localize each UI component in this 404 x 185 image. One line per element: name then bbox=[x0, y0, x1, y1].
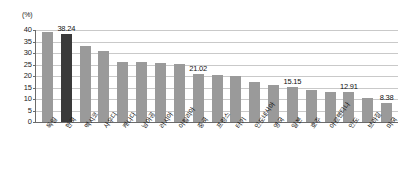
y-tick-label: 0 bbox=[28, 118, 32, 126]
x-label-slot: 사우디 bbox=[95, 124, 114, 182]
y-tick-label: 25 bbox=[24, 61, 32, 69]
x-label-slot: 러시아 bbox=[151, 124, 170, 182]
y-tick-label: 35 bbox=[24, 38, 32, 46]
x-label-slot: 아르헨티나 bbox=[321, 124, 340, 182]
x-label-slot: 미국 bbox=[377, 124, 396, 182]
bar-slot bbox=[113, 30, 132, 122]
bar-slot bbox=[208, 30, 227, 122]
y-tick-label: 10 bbox=[24, 95, 32, 103]
y-tick-label: 30 bbox=[24, 49, 32, 57]
x-label-slot: 남아공 bbox=[132, 124, 151, 182]
bar-slot: 8.38 bbox=[377, 30, 396, 122]
bar-slot bbox=[132, 30, 151, 122]
x-label-slot: 이탈리아 bbox=[170, 124, 189, 182]
bar bbox=[155, 63, 166, 122]
y-axis-unit-label: (%) bbox=[22, 11, 32, 18]
x-axis-labels: 독일한국멕시코사우디캐나다남아공러시아이탈리아중국프랑스터키인도네시아영국일본호… bbox=[36, 124, 398, 182]
bar-slot: 15.15 bbox=[283, 30, 302, 122]
x-label-slot: 호주 bbox=[302, 124, 321, 182]
y-tick-label: 15 bbox=[24, 84, 32, 92]
bar bbox=[80, 46, 91, 122]
bar-value-label: 15.15 bbox=[284, 78, 302, 86]
bar-slot bbox=[76, 30, 95, 122]
bar bbox=[117, 62, 128, 122]
bar-slot bbox=[170, 30, 189, 122]
bar bbox=[42, 32, 53, 122]
bar-slot bbox=[38, 30, 57, 122]
bar-slot: 38.24 bbox=[57, 30, 76, 122]
bar-slot bbox=[321, 30, 340, 122]
y-tick-label: 40 bbox=[24, 26, 32, 34]
bar-value-label: 21.02 bbox=[189, 65, 207, 73]
bar-slot bbox=[151, 30, 170, 122]
x-label-slot: 일본 bbox=[283, 124, 302, 182]
bar-chart: (%) 0510152025303540 38.2421.0215.1512.9… bbox=[0, 0, 404, 185]
x-label-slot: 캐나다 bbox=[113, 124, 132, 182]
x-label-slot: 프랑스 bbox=[208, 124, 227, 182]
bar-value-label: 38.24 bbox=[57, 25, 75, 33]
bar-slot bbox=[302, 30, 321, 122]
bar-slot bbox=[95, 30, 114, 122]
bar bbox=[98, 51, 109, 122]
bar-slot bbox=[245, 30, 264, 122]
bar-value-label: 12.91 bbox=[340, 83, 358, 91]
y-tick-label: 5 bbox=[28, 107, 32, 115]
x-label-slot: 인도 bbox=[340, 124, 359, 182]
bar-slot bbox=[226, 30, 245, 122]
x-label-slot: 독일 bbox=[38, 124, 57, 182]
x-label-slot: 멕시코 bbox=[76, 124, 95, 182]
x-label-slot: 브라질 bbox=[358, 124, 377, 182]
x-label-slot: 영국 bbox=[264, 124, 283, 182]
bar-slot bbox=[358, 30, 377, 122]
y-tick-label: 20 bbox=[24, 72, 32, 80]
bar: 38.24 bbox=[61, 34, 72, 122]
x-label-slot: 중국 bbox=[189, 124, 208, 182]
bar bbox=[230, 76, 241, 122]
bar-value-label: 8.38 bbox=[380, 94, 394, 102]
x-label-slot: 인도네시아 bbox=[245, 124, 264, 182]
bar bbox=[174, 64, 185, 122]
x-label-slot: 한국 bbox=[57, 124, 76, 182]
x-label-slot: 터키 bbox=[226, 124, 245, 182]
y-tick-mark bbox=[33, 122, 36, 123]
bar bbox=[136, 62, 147, 122]
